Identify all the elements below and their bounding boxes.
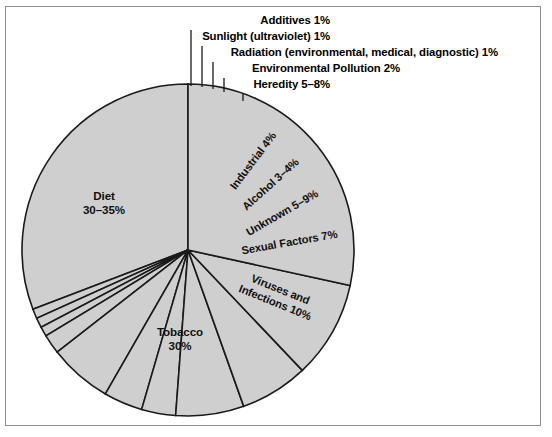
callout-label-additives: Additives 1% [260, 14, 330, 26]
slice-label-line: Diet [93, 189, 115, 202]
callout-label-radiation: Radiation (environmental, medical, diagn… [231, 46, 498, 58]
slice-label-line: 30–35% [83, 203, 125, 216]
chart-page: Diet30–35%Additives 1%Sunlight (ultravio… [0, 0, 552, 437]
slice-label-line: Tobacco [157, 325, 203, 338]
callout-label-environmental-pollution: Environmental Pollution 2% [252, 62, 400, 74]
pie-slices [22, 84, 354, 416]
callout-label-heredity: Heredity 5–8% [253, 78, 330, 90]
slice-label-line: 30% [169, 339, 192, 352]
pie-chart: Diet30–35%Additives 1%Sunlight (ultravio… [0, 0, 552, 437]
callout-label-sunlight-ultraviolet: Sunlight (ultraviolet) 1% [202, 30, 330, 42]
